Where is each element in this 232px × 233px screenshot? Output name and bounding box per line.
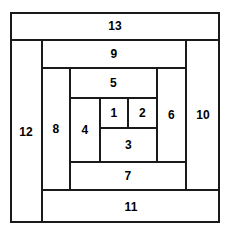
piece-label-6: 6 (168, 109, 175, 121)
piece-label-4: 4 (82, 124, 89, 136)
block-piece-3: 3 (100, 128, 157, 162)
piece-label-2: 2 (139, 107, 146, 119)
block-piece-6: 6 (157, 68, 186, 162)
block-piece-12: 12 (10, 40, 42, 223)
piece-label-13: 13 (108, 20, 122, 32)
block-piece-4: 4 (70, 98, 100, 162)
log-cabin-block-diagram: 12345678910111213 (0, 0, 232, 233)
piece-label-5: 5 (110, 77, 117, 89)
piece-label-12: 12 (19, 126, 33, 138)
block-piece-2: 2 (128, 98, 157, 128)
block-piece-5: 5 (70, 68, 157, 98)
piece-label-8: 8 (53, 123, 60, 135)
piece-label-7: 7 (125, 170, 132, 182)
block-piece-13: 13 (10, 12, 220, 40)
block-piece-9: 9 (42, 40, 186, 68)
piece-label-10: 10 (196, 109, 210, 121)
block-piece-11: 11 (42, 190, 220, 223)
piece-label-9: 9 (111, 48, 118, 60)
block-piece-10: 10 (186, 40, 220, 190)
piece-label-3: 3 (125, 139, 132, 151)
block-piece-7: 7 (70, 162, 186, 190)
block-piece-1: 1 (100, 98, 128, 128)
block-piece-8: 8 (42, 68, 70, 190)
piece-label-1: 1 (111, 107, 118, 119)
piece-label-11: 11 (124, 201, 137, 213)
